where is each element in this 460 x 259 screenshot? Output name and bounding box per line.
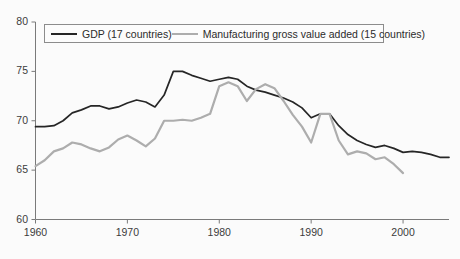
legend-entry-gdp: GDP (17 countries) — [51, 28, 172, 40]
y-tick-label: 70 — [6, 114, 28, 126]
data-series-group — [36, 71, 450, 173]
x-tick-label: 1970 — [107, 226, 147, 238]
chart-legend: GDP (17 countries) Manufacturing gross v… — [44, 24, 384, 43]
x-tick-label: 2000 — [383, 226, 423, 238]
y-tick-label: 80 — [6, 15, 28, 27]
legend-entry-manufacturing: Manufacturing gross value added (15 coun… — [172, 28, 425, 40]
x-tick-label: 1980 — [199, 226, 239, 238]
y-axis-ticks — [32, 22, 36, 220]
series-line-manufacturing — [36, 82, 404, 173]
y-tick-label: 65 — [6, 163, 28, 175]
x-tick-label: 1960 — [16, 226, 56, 238]
legend-swatch-gdp-icon — [51, 33, 77, 35]
series-line-gdp — [36, 71, 450, 157]
legend-label-gdp: GDP (17 countries) — [82, 28, 172, 40]
legend-swatch-manufacturing-icon — [172, 33, 198, 35]
y-tick-label: 60 — [6, 213, 28, 225]
x-axis-ticks — [36, 220, 404, 224]
x-tick-label: 1990 — [291, 226, 331, 238]
axes-group — [32, 22, 450, 224]
legend-label-manufacturing: Manufacturing gross value added (15 coun… — [203, 28, 425, 40]
chart-figure: 6065707580 19601970198019902000 GDP (17 … — [0, 0, 460, 259]
y-tick-label: 75 — [6, 64, 28, 76]
